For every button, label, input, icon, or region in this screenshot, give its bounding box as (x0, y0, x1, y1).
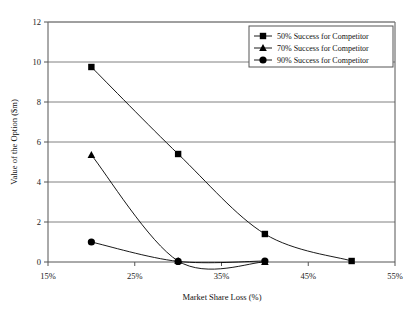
y-tick-label: 0 (37, 257, 41, 267)
chart-legend: 50% Success for Competitor70% Success fo… (249, 26, 393, 67)
y-tick-label: 8 (37, 97, 41, 107)
data-point-square (262, 231, 268, 237)
y-axis-title: Value of the Option ($m) (9, 99, 19, 185)
data-point-circle (261, 257, 268, 264)
data-point-square (175, 151, 181, 157)
y-tick-label: 10 (33, 57, 42, 67)
chart-canvas: 024681012 15%25%35%45%55% 50% Success fo… (0, 0, 420, 314)
x-tick-label: 45% (300, 271, 316, 281)
x-tick-label: 55% (387, 271, 403, 281)
x-tick-label: 15% (40, 271, 56, 281)
data-point-circle (175, 258, 182, 265)
legend-label: 50% Success for Competitor (277, 32, 369, 41)
y-tick-label: 2 (37, 217, 41, 227)
legend-label: 90% Success for Competitor (277, 56, 369, 65)
data-point-square (88, 64, 94, 70)
legend-marker-circle (259, 56, 266, 63)
legend-marker-square (260, 33, 266, 39)
data-point-circle (88, 238, 95, 245)
data-point-square (348, 258, 354, 264)
legend-label: 70% Success for Competitor (277, 44, 369, 53)
x-tick-label: 35% (214, 271, 230, 281)
line-chart: 024681012 15%25%35%45%55% 50% Success fo… (0, 0, 420, 314)
y-tick-label: 6 (37, 137, 41, 147)
x-axis-title: Market Share Loss (%) (182, 292, 261, 302)
y-tick-label: 12 (33, 17, 42, 27)
x-tick-label: 25% (127, 271, 143, 281)
